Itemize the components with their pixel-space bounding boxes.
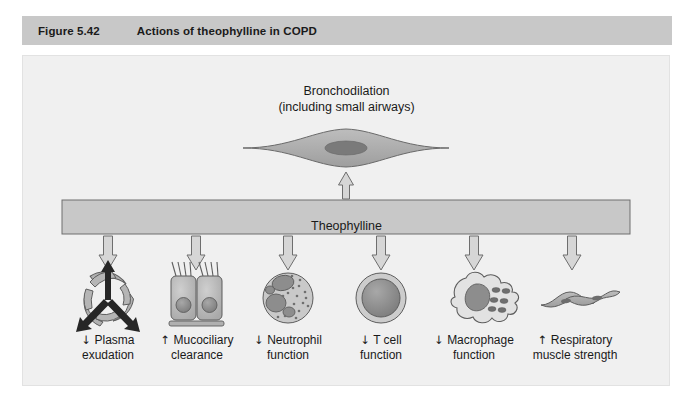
effect-label-respiratory-muscle-strength: ↑ Respiratory muscle strength: [512, 333, 638, 363]
figure-header-bar: Figure 5.42 Actions of theophylline in C…: [22, 16, 672, 45]
up-arrow-glyph: ↑: [538, 333, 548, 347]
down-arrow-glyph: ↓: [82, 333, 92, 347]
theophylline-bar-label: Theophylline: [0, 219, 693, 234]
effect-text-line2: muscle strength: [512, 348, 638, 363]
effect-text-line1: Plasma: [94, 333, 134, 347]
effect-text-line1: T cell: [373, 333, 401, 347]
effect-text-line1: Mucociliary: [173, 333, 233, 347]
figure-root: Figure 5.42 Actions of theophylline in C…: [0, 0, 693, 410]
effect-text-line1: Macrophage: [447, 333, 514, 347]
effect-text-line1: Respiratory: [551, 333, 612, 347]
up-arrow-glyph: ↑: [161, 333, 171, 347]
down-arrow-glyph: ↓: [254, 333, 264, 347]
page-title: Actions of theophylline in COPD: [137, 25, 317, 37]
down-arrow-glyph: ↓: [360, 333, 370, 347]
effect-text-line1: Neutrophil: [267, 333, 322, 347]
bronchodilation-subtitle: (including small airways): [0, 100, 693, 115]
bronchodilation-title: Bronchodilation: [0, 84, 693, 99]
figure-number: Figure 5.42: [38, 25, 100, 37]
down-arrow-glyph: ↓: [434, 333, 444, 347]
